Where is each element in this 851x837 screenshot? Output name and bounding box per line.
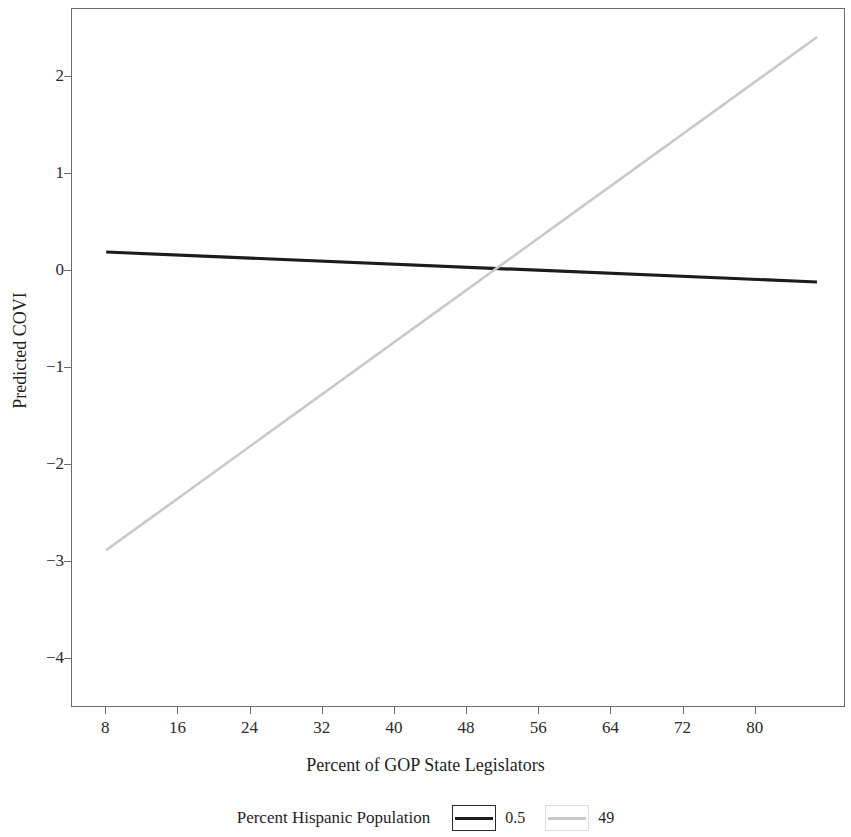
x-axis-tick-labels: 8162432404856647280	[0, 719, 851, 743]
legend-key-line	[548, 817, 586, 820]
x-tick-label: 56	[508, 719, 568, 736]
chart-figure: 210−1−2−3−4 8162432404856647280 Percent …	[0, 0, 851, 837]
y-tick-label: −2	[18, 455, 64, 472]
x-tick-label: 40	[364, 719, 424, 736]
y-tick-mark	[64, 76, 71, 77]
x-tick-mark	[538, 707, 539, 714]
x-tick-label: 8	[75, 719, 135, 736]
y-tick-label-row: −2	[12, 455, 64, 473]
legend-key-line	[455, 817, 493, 820]
x-tick-label: 72	[653, 719, 713, 736]
y-tick-label: 2	[18, 67, 64, 84]
y-tick-mark	[64, 464, 71, 465]
chart-legend: Percent Hispanic Population 0.549	[0, 802, 851, 834]
legend-entry-49[interactable]: 49	[545, 805, 614, 831]
y-tick-label: 1	[18, 164, 64, 181]
y-tick-label: −4	[18, 649, 64, 666]
legend-label: 0.5	[505, 809, 525, 827]
x-tick-label: 48	[436, 719, 496, 736]
plot-panel	[71, 8, 845, 707]
y-tick-label-row: 2	[12, 67, 64, 85]
x-tick-label: 64	[580, 719, 640, 736]
y-tick-mark	[64, 173, 71, 174]
y-tick-mark	[64, 367, 71, 368]
y-tick-label-row: 1	[12, 164, 64, 182]
legend-title: Percent Hispanic Population	[237, 808, 431, 828]
series-group	[106, 37, 817, 550]
series-line-49	[106, 37, 817, 550]
x-tick-mark	[105, 707, 106, 714]
legend-entry-0.5[interactable]: 0.5	[452, 805, 525, 831]
x-tick-mark	[322, 707, 323, 714]
x-tick-mark	[755, 707, 756, 714]
x-tick-mark	[177, 707, 178, 714]
x-tick-mark	[683, 707, 684, 714]
x-tick-mark	[610, 707, 611, 714]
y-tick-mark	[64, 561, 71, 562]
legend-key-swatch	[452, 805, 496, 831]
x-tick-label: 80	[725, 719, 785, 736]
y-axis-title: Predicted COVI	[10, 271, 31, 431]
x-tick-label: 24	[220, 719, 280, 736]
series-line-0.5	[106, 252, 817, 282]
x-axis-title: Percent of GOP State Legislators	[0, 755, 851, 776]
x-tick-label: 32	[292, 719, 352, 736]
y-tick-label-row: −4	[12, 649, 64, 667]
y-tick-mark	[64, 658, 71, 659]
x-tick-mark	[250, 707, 251, 714]
y-tick-label-row: −3	[12, 552, 64, 570]
plot-lines-svg	[72, 9, 844, 706]
x-tick-mark	[394, 707, 395, 714]
legend-label: 49	[598, 809, 614, 827]
legend-entries: 0.549	[452, 805, 614, 831]
x-tick-mark	[466, 707, 467, 714]
legend-key-swatch	[545, 805, 589, 831]
x-tick-label: 16	[147, 719, 207, 736]
y-tick-label: −3	[18, 552, 64, 569]
y-tick-mark	[64, 270, 71, 271]
